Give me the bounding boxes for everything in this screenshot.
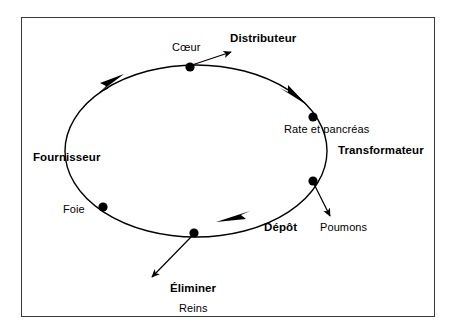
branch-arrow-coeur bbox=[192, 52, 231, 65]
node-dot-coeur[interactable] bbox=[185, 62, 194, 71]
role-label-fournisseur: Fournisseur bbox=[33, 152, 101, 164]
node-dot-poumons[interactable] bbox=[308, 176, 317, 185]
organ-label-rate-pancreas: Rate et pancréas bbox=[284, 124, 369, 135]
organ-label-foie: Foie bbox=[63, 204, 85, 215]
organ-label-poumons: Poumons bbox=[320, 222, 367, 233]
role-label-distributeur: Distributeur bbox=[230, 33, 296, 45]
cycle-diagram-graphic bbox=[0, 0, 456, 336]
node-dot-rate-pancreas[interactable] bbox=[308, 112, 317, 121]
role-label-transformateur: Transformateur bbox=[338, 145, 424, 157]
node-dot-reins[interactable] bbox=[189, 228, 198, 237]
node-dot-foie[interactable] bbox=[98, 202, 107, 211]
branch-arrow-reins bbox=[152, 236, 192, 277]
organ-label-coeur: Cœur bbox=[172, 42, 201, 53]
diagram-canvas: Distributeur Transformateur Fournisseur … bbox=[0, 0, 456, 336]
flow-arrow-bottom-icon bbox=[216, 211, 250, 222]
organ-label-reins: Reins bbox=[179, 303, 208, 314]
branch-arrow-poumons bbox=[314, 184, 330, 216]
role-label-depot: Dépôt bbox=[264, 222, 297, 234]
role-label-eliminer: Éliminer bbox=[170, 283, 216, 295]
